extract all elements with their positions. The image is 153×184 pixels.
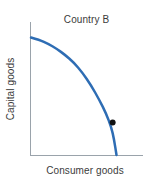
y-axis-label: Capital goods [5, 57, 17, 119]
y-axis-label-container: Capital goods [0, 22, 22, 155]
chart-canvas [0, 0, 153, 184]
chart-title: Country B [30, 14, 143, 26]
x-axis-label: Consumer goods [20, 165, 150, 177]
ppf-curve [31, 38, 117, 156]
ppf-chart-figure: Country B Capital goods Consumer goods [0, 0, 153, 184]
production-point-marker[interactable] [110, 120, 116, 126]
